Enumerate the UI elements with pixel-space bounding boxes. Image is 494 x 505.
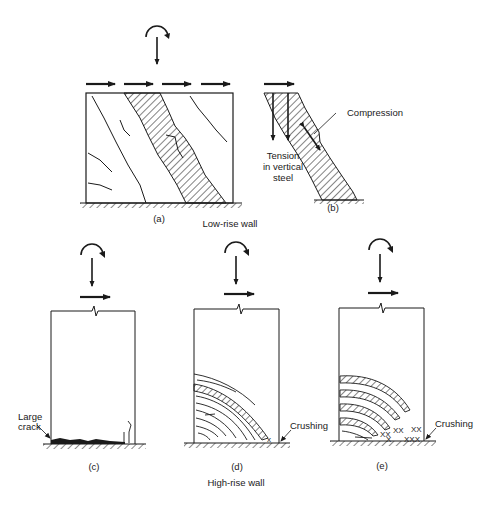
wall-outline xyxy=(194,304,279,443)
wall-failure-diagram: x XX XX XX X XXX xyxy=(0,0,494,505)
panel-e: XX XX XX X XXX xyxy=(330,239,436,446)
tension-annotation-line1: Tension xyxy=(258,150,308,161)
inclined-cracks xyxy=(194,374,255,440)
inclined-cracks xyxy=(342,431,372,440)
crushing-leader xyxy=(426,428,436,439)
ground-base xyxy=(184,443,290,448)
ground-base xyxy=(43,444,146,449)
compression-strut xyxy=(264,93,357,200)
compression-strut xyxy=(124,93,226,203)
crushing-annotation-e: Crushing xyxy=(435,418,473,429)
ground-base xyxy=(330,441,436,446)
crushing-annotation-d: Crushing xyxy=(290,420,328,431)
compression-annotation: Compression xyxy=(347,107,403,118)
high-rise-caption: High-rise wall xyxy=(196,477,276,488)
moment-icon xyxy=(225,242,249,256)
svg-text:XX: XX xyxy=(411,425,422,434)
large-crack-annotation-line2: crack xyxy=(18,421,41,432)
ground-base xyxy=(80,203,242,208)
panel-c xyxy=(37,244,146,449)
low-rise-caption: Low-rise wall xyxy=(190,218,270,229)
moment-icon xyxy=(369,239,393,253)
panel-b xyxy=(264,84,364,204)
tension-annotation-line3: steel xyxy=(258,172,308,183)
compression-leader xyxy=(314,113,336,134)
moment-icon xyxy=(81,244,105,258)
panel-d: x xyxy=(184,242,291,448)
compression-band-4 xyxy=(340,418,378,436)
tension-annotation-line2: in vertical xyxy=(258,161,308,172)
panel-b-label: (b) xyxy=(322,202,344,213)
panel-c-label: (c) xyxy=(83,461,105,472)
panel-d-label: (d) xyxy=(226,461,248,472)
wall-outline xyxy=(51,306,135,444)
moment-icon xyxy=(146,26,170,39)
crushing-leader xyxy=(281,430,291,441)
flexural-cracks xyxy=(124,421,131,443)
panel-a-label: (a) xyxy=(148,213,170,224)
panel-e-label: (e) xyxy=(371,460,393,471)
panel-a xyxy=(80,26,242,208)
large-crack xyxy=(51,438,125,444)
svg-text:XX: XX xyxy=(393,426,404,435)
